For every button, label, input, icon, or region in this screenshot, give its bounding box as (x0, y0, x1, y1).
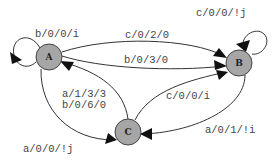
node-B: B (226, 50, 252, 76)
node-A-label: A (45, 52, 54, 62)
arrowhead-B-C (140, 128, 152, 140)
edge-label-A-C: a/0/0/!j (23, 143, 73, 155)
state-diagram: A B C b/0/0/i c/0/2/0 b/0/3/0 c/0/0/!j a… (0, 0, 280, 168)
node-B-label: B (235, 58, 243, 68)
edge-label-A-A: b/0/0/i (35, 28, 79, 40)
edge-label-C-B: c/0/0/i (166, 90, 210, 102)
edge-label-A-B-top: c/0/2/0 (125, 29, 169, 41)
node-C: C (115, 119, 141, 145)
node-C-label: C (124, 127, 131, 137)
arrowhead-A-B-top (213, 48, 227, 58)
arrowhead-C-A (60, 61, 74, 71)
edge-label-B-C: a/0/1/!i (205, 124, 255, 136)
edge-A-A (13, 38, 40, 66)
arrowhead-C-B (216, 70, 228, 80)
edge-label-A-B-bottom: b/0/3/0 (124, 54, 168, 66)
arrowhead-A-B-bottom (214, 60, 227, 70)
edge-label-C-A-line2: b/0/6/0 (62, 99, 106, 111)
node-A: A (36, 44, 62, 70)
arrowhead-A-A (10, 52, 22, 64)
edge-label-B-B: c/0/0/!j (196, 7, 246, 19)
